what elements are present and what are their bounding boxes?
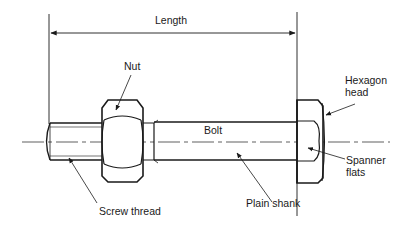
plain-shank (154, 122, 297, 160)
nut (102, 100, 143, 182)
screw-thread-leader (69, 158, 97, 203)
bolt-label: Bolt (204, 124, 222, 136)
hexagon-head-leader (326, 104, 355, 115)
hexagon-head (297, 100, 325, 216)
plain-shank-label: Plain shank (246, 197, 300, 209)
spanner-flats-label-line1: Spanner (346, 154, 386, 166)
spanner-flats-label-line2: flats (346, 166, 365, 178)
hexagon-head-label-line1: Hexagon (345, 74, 387, 86)
screw-thread-label: Screw thread (99, 205, 161, 217)
length-label: Length (155, 14, 187, 26)
screw-thread (47, 123, 103, 160)
bolt-diagram (0, 0, 407, 228)
length-dimension (49, 12, 297, 124)
hexagon-head-label-line2: head (345, 86, 368, 98)
thread-runout (143, 120, 158, 163)
nut-label: Nut (124, 60, 140, 72)
